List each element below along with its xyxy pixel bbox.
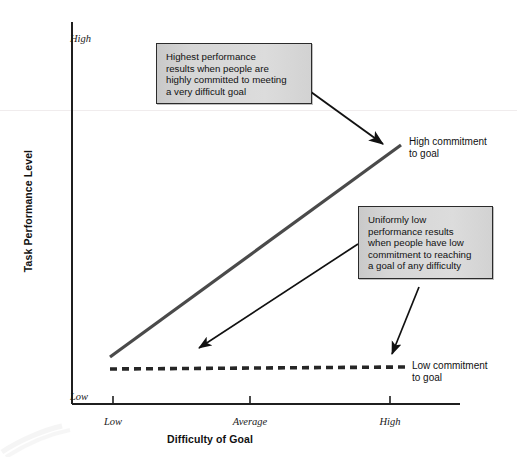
- callout-2-line-4: commitment to reaching: [368, 249, 484, 261]
- series-label-high-commitment: High commitment to goal: [409, 136, 487, 160]
- series-label-low-commitment-line-2: to goal: [412, 372, 488, 384]
- callout-uniformly-low: Uniformly low performance results when p…: [358, 206, 493, 279]
- series-label-high-commitment-line-2: to goal: [409, 148, 487, 160]
- callout-1-line-3: highly committed to meeting: [166, 74, 303, 86]
- callout-1-line-1: Highest performance: [166, 51, 303, 63]
- series-label-low-commitment: Low commitment to goal: [412, 360, 488, 384]
- series-label-high-commitment-line-1: High commitment: [409, 136, 487, 148]
- series-low-commitment-line: [110, 367, 406, 369]
- callout-2-line-1: Uniformly low: [368, 214, 484, 226]
- callout-2-line-5: a goal of any difficulty: [368, 260, 484, 272]
- callout-1-line-2: results when people are: [166, 63, 303, 75]
- x-tick-high-label: High: [380, 416, 401, 427]
- callout-1-line-4: a very difficult goal: [166, 86, 303, 98]
- series-label-low-commitment-line-1: Low commitment: [412, 360, 488, 372]
- x-axis-tick-marks: [113, 396, 390, 404]
- y-tick-high-label: High: [70, 33, 91, 44]
- arrow-to-low-commitment-right: [392, 287, 419, 354]
- x-tick-low-label: Low: [104, 416, 122, 427]
- callout-2-line-3: when people have low: [368, 237, 484, 249]
- x-axis-title: Difficulty of Goal: [0, 433, 420, 445]
- callout-2-line-2: performance results: [368, 226, 484, 238]
- arrow-to-high-commitment: [311, 92, 383, 144]
- y-tick-low-label: Low: [70, 391, 88, 402]
- y-axis-title: Task Performance Level: [22, 121, 34, 301]
- callout-highest-performance: Highest performance results when people …: [156, 43, 312, 104]
- x-tick-average-label: Average: [233, 416, 267, 427]
- goal-difficulty-performance-chart: High Low Low Average High Difficulty of …: [0, 0, 517, 457]
- arrow-to-low-commitment-left: [199, 244, 358, 348]
